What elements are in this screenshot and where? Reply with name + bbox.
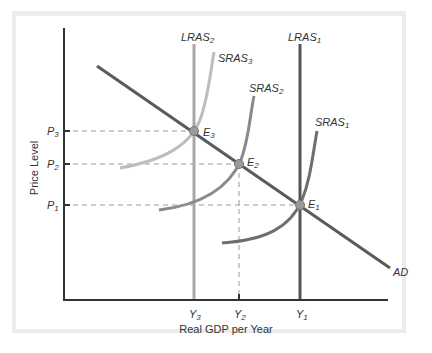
guide-lines: [64, 131, 300, 300]
e2-point: [235, 160, 244, 169]
e1-point: [296, 201, 305, 210]
ad-curve: [97, 66, 390, 268]
sras3-curve: [120, 52, 214, 168]
sras1-label: SRAS1: [315, 116, 349, 130]
e1-label: E1: [308, 198, 320, 212]
y2-label: Y2: [234, 308, 246, 322]
e3-label: E3: [203, 126, 215, 140]
p3-label: P3: [47, 125, 59, 139]
y-axis-title: Price Level: [28, 141, 40, 195]
ad-label: AD: [392, 266, 408, 278]
sras2-curve: [159, 96, 254, 210]
y1-label: Y1: [296, 308, 308, 322]
p2-label: P2: [47, 158, 59, 172]
x-axis-title: Real GDP per Year: [179, 323, 273, 335]
ad-as-diagram: LRAS2 LRAS1 SRAS3 SRAS2 SRAS1 AD E3 E2 E…: [0, 0, 432, 353]
figure-frame: LRAS2 LRAS1 SRAS3 SRAS2 SRAS1 AD E3 E2 E…: [0, 0, 432, 353]
y3-label: Y3: [189, 308, 201, 322]
e3-point: [190, 127, 199, 136]
p1-label: P1: [47, 199, 59, 213]
sras1-curve: [222, 131, 317, 243]
sras2-label: SRAS2: [249, 82, 284, 96]
sras3-label: SRAS3: [218, 52, 253, 66]
e2-label: E2: [247, 156, 259, 170]
lras1-label: LRAS1: [288, 31, 321, 45]
lras2-label: LRAS2: [181, 31, 215, 45]
